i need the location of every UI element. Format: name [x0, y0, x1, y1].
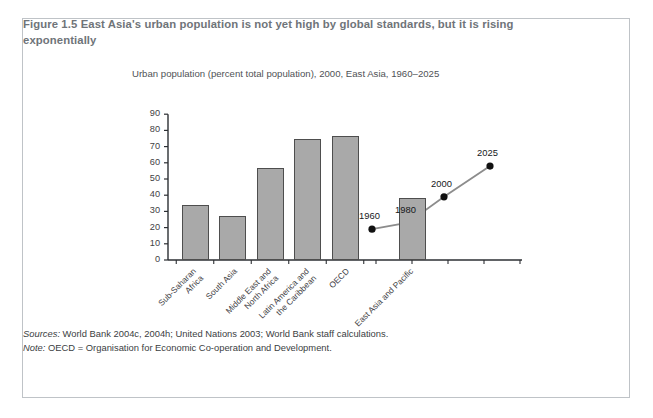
- y-tick-label: 0: [140, 254, 160, 264]
- bar-4: [332, 136, 359, 260]
- y-tick-label: 40: [140, 189, 160, 199]
- trend-point-label-2025: 2025: [477, 147, 498, 158]
- chart-plot-area: 0102030405060708090Sub-SaharanAfricaSout…: [0, 0, 608, 380]
- sources-line: Sources: World Bank 2004c, 2004h; United…: [23, 327, 563, 341]
- trend-point-label-1980: 1980: [395, 204, 416, 215]
- y-tick-label: 10: [140, 238, 160, 248]
- bar-2: [257, 168, 284, 260]
- y-tick-label: 30: [140, 205, 160, 215]
- trend-point-2000: [440, 193, 447, 200]
- trend-line: [372, 166, 490, 229]
- bar-0: [182, 205, 209, 260]
- trend-point-label-1960: 1960: [359, 210, 380, 221]
- note-label: Note:: [23, 342, 45, 353]
- trend-point-label-2000: 2000: [431, 178, 452, 189]
- sources-text: World Bank 2004c, 2004h; United Nations …: [63, 328, 389, 339]
- y-tick-label: 20: [140, 222, 160, 232]
- bar-3: [294, 139, 321, 261]
- note-line: Note: OECD = Organisation for Economic C…: [23, 341, 563, 355]
- y-tick-label: 60: [140, 157, 160, 167]
- y-tick-label: 90: [140, 108, 160, 118]
- y-tick-label: 50: [140, 173, 160, 183]
- y-tick-label: 80: [140, 124, 160, 134]
- trend-point-1960: [368, 226, 375, 233]
- figure-footnotes: Sources: World Bank 2004c, 2004h; United…: [23, 327, 563, 355]
- sources-label: Sources:: [23, 328, 60, 339]
- trend-point-2025: [486, 162, 493, 169]
- bar-1: [219, 216, 246, 260]
- note-text: OECD = Organisation for Economic Co-oper…: [48, 342, 332, 353]
- y-tick-label: 70: [140, 141, 160, 151]
